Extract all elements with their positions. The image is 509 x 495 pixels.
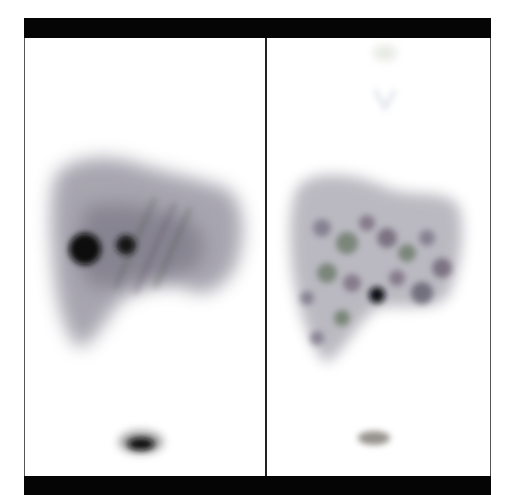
scan-panel-right (267, 38, 490, 476)
hot-spot-central (369, 287, 385, 303)
top-black-bar (24, 18, 491, 38)
liver-scan-right-image (267, 38, 490, 476)
bottom-black-bar (24, 476, 491, 495)
hot-spot-large (69, 233, 101, 265)
liver-scan-left-image (25, 38, 265, 476)
hot-spot-small (116, 235, 136, 255)
scan-panel-left (25, 38, 265, 476)
